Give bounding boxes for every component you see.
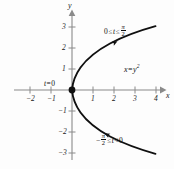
x-tick-label--2: −2 [26, 95, 35, 103]
plot-canvas [0, 0, 174, 169]
y-tick-label-1: 1 [62, 65, 66, 73]
origin-label-value: 0 [51, 79, 55, 88]
lower-range-fraction: π2 [101, 133, 106, 147]
upper-branch-range-label: 0≤t≤π2 [104, 25, 126, 39]
parametric-curve-figure: −2 −1 1 2 3 4 3 2 1 −1 −2 −3 x y t=0 0≤t… [0, 0, 174, 169]
origin-parameter-label: t=0 [44, 80, 55, 88]
equation-exponent: 2 [137, 63, 140, 69]
upper-range-denominator: 2 [121, 31, 126, 38]
x-tick-label-3: 3 [133, 95, 137, 103]
x-tick-label--1: −1 [47, 95, 56, 103]
origin-point-marker [69, 87, 76, 94]
y-tick-label--1: −1 [58, 107, 67, 115]
y-tick-label--2: −2 [58, 128, 67, 136]
lower-range-denominator: 2 [101, 140, 106, 147]
lower-branch-range-label: −π2≤t<0 [96, 134, 123, 148]
x-axis [14, 87, 167, 94]
y-tick-label--3: −3 [58, 149, 67, 157]
upper-range-rel2: ≤ [115, 27, 120, 36]
x-tick-label-1: 1 [91, 95, 95, 103]
curve-equation-label: x=y2 [124, 64, 139, 74]
y-tick-label-2: 2 [62, 44, 66, 52]
upper-range-fraction: π2 [121, 24, 126, 38]
y-tick-label-3: 3 [62, 23, 66, 31]
x-tick-label-2: 2 [112, 95, 116, 103]
x-tick-label-4: 4 [154, 95, 158, 103]
x-axis-name: x [166, 92, 170, 100]
lower-range-minus: − [96, 136, 100, 145]
y-axis-name: y [68, 2, 72, 10]
lower-range-end: 0 [119, 136, 123, 145]
